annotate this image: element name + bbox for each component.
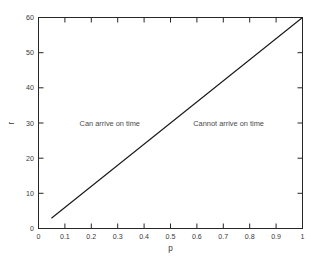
x-tick-label-1: 1 bbox=[301, 233, 305, 241]
x-tick-label-0.7: 0.7 bbox=[218, 233, 228, 241]
x-tick-label-0.3: 0.3 bbox=[113, 233, 123, 241]
y-tick-label-30: 30 bbox=[26, 120, 34, 128]
y-tick-label-60: 60 bbox=[26, 14, 34, 22]
x-tick-label-0.9: 0.9 bbox=[271, 233, 281, 241]
annotation-cannot-arrive-on-time: Cannot arrive on time bbox=[193, 119, 264, 128]
y-tick-label-40: 40 bbox=[26, 84, 34, 92]
line-chart: 0 10 20 30 40 50 60 0 0.1 0.2 0.3 0.4 0.… bbox=[0, 0, 320, 265]
x-tick-label-0.2: 0.2 bbox=[86, 233, 96, 241]
x-tick-label-0.4: 0.4 bbox=[139, 233, 149, 241]
x-tick-label-0.6: 0.6 bbox=[192, 233, 202, 241]
x-axis-label: p bbox=[168, 244, 173, 253]
x-tick-label-0.1: 0.1 bbox=[60, 233, 70, 241]
y-tick-label-20: 20 bbox=[26, 155, 34, 163]
chart-figure: 0 10 20 30 40 50 60 0 0.1 0.2 0.3 0.4 0.… bbox=[0, 0, 320, 265]
y-tick-label-50: 50 bbox=[26, 49, 34, 57]
y-tick-labels: 0 10 20 30 40 50 60 bbox=[26, 14, 34, 233]
x-tick-label-0.5: 0.5 bbox=[166, 233, 176, 241]
annotation-can-arrive-on-time: Can arrive on time bbox=[80, 119, 140, 128]
x-tick-label-0.8: 0.8 bbox=[245, 233, 255, 241]
x-tick-labels: 0 0.1 0.2 0.3 0.4 0.5 0.6 0.7 0.8 0.9 1 bbox=[37, 233, 305, 241]
x-tick-label-0: 0 bbox=[37, 233, 41, 241]
y-tick-label-10: 10 bbox=[26, 190, 34, 198]
y-axis-label: r bbox=[7, 121, 16, 124]
y-tick-label-0: 0 bbox=[30, 225, 34, 233]
